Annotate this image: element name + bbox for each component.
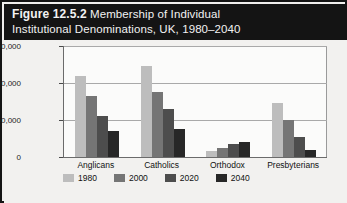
legend-label-1980: 1980: [78, 173, 97, 183]
bar: [86, 96, 97, 157]
bar: [141, 66, 152, 157]
legend-label-2000: 2000: [129, 173, 148, 183]
x-axis-label-catholics: Catholics: [144, 160, 179, 170]
legend-item-2020[interactable]: 2020: [165, 173, 199, 183]
legend-item-2000[interactable]: 2000: [114, 173, 148, 183]
x-axis-label-orthodox: Orthodox: [210, 160, 245, 170]
legend-swatch-2000: [114, 174, 125, 182]
figure-title-part-1: Membership of Individual: [90, 8, 220, 20]
bar: [163, 109, 174, 157]
legend-swatch-2020: [165, 174, 176, 182]
x-axis-label-anglicans: Anglicans: [77, 160, 114, 170]
chart-legend: 1980200020202040: [63, 173, 250, 183]
bar-groups: [64, 46, 327, 157]
x-axis-label-presbyterians: Presbyterians: [267, 160, 319, 170]
figure-title-line-1: Figure 12.5.2 Membership of Individual: [12, 7, 347, 22]
bar: [206, 151, 217, 157]
legend-label-2020: 2020: [180, 173, 199, 183]
figure-number: Figure 12.5.2: [12, 7, 87, 21]
chart-region: 01,000,0002,000,0003,000,000 AnglicansCa…: [4, 40, 347, 203]
legend-swatch-1980: [63, 174, 74, 182]
bar: [108, 131, 119, 157]
bar: [174, 129, 185, 157]
bar-group: [196, 46, 262, 157]
plot-area: [63, 46, 327, 158]
bar: [272, 103, 283, 157]
bar: [75, 76, 86, 157]
legend-item-2040[interactable]: 2040: [216, 173, 250, 183]
bar-group: [261, 46, 327, 157]
bar: [305, 150, 316, 157]
bar-group: [64, 46, 130, 157]
figure-title-line-2: Institutional Denominations, UK, 1980–20…: [12, 22, 347, 37]
bar: [283, 120, 294, 157]
bar: [152, 92, 163, 157]
legend-label-2040: 2040: [231, 173, 250, 183]
y-axis-tick-label: 3,000,000: [0, 42, 21, 51]
bar: [239, 142, 250, 157]
figure-title-banner: Figure 12.5.2 Membership of Individual I…: [4, 4, 347, 40]
y-axis-tick-label: 2,000,000: [0, 79, 21, 88]
bar-group: [130, 46, 196, 157]
bar: [217, 148, 228, 157]
bar: [294, 137, 305, 157]
bar: [228, 144, 239, 157]
legend-item-1980[interactable]: 1980: [63, 173, 97, 183]
bar: [97, 116, 108, 157]
legend-swatch-2040: [216, 174, 227, 182]
y-axis-tick-label: 1,000,000: [0, 116, 21, 125]
figure-container: Figure 12.5.2 Membership of Individual I…: [0, 0, 347, 203]
y-axis-tick-label: 0: [0, 153, 21, 162]
